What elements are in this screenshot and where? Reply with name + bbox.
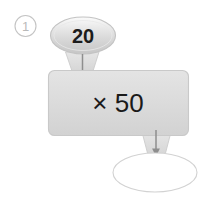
- worksheet-canvas: 1 20 × 50: [0, 0, 208, 207]
- input-value-label: 20: [72, 25, 94, 47]
- operation-box: × 50: [49, 71, 189, 136]
- problem-number-badge: 1: [15, 16, 36, 37]
- oval-shape[interactable]: [113, 153, 197, 192]
- output-oval[interactable]: [113, 153, 197, 192]
- operation-label: × 50: [92, 88, 143, 118]
- input-oval: 20: [51, 17, 116, 54]
- problem-number-label: 1: [22, 19, 29, 34]
- function-machine-diagram: 1 20 × 50: [0, 0, 208, 207]
